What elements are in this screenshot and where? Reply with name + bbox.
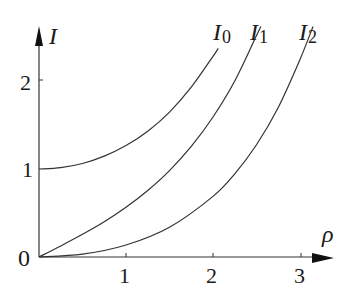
curve-label-I1: I1 — [249, 19, 268, 47]
x-tick-label-1: 1 — [119, 263, 130, 288]
x-axis-label: ρ — [321, 221, 334, 247]
y-axis-arrow-icon — [35, 26, 43, 46]
x-tick-label-2: 2 — [206, 263, 217, 288]
y-axis-label: I — [48, 23, 58, 49]
bessel-chart: 0 1 2 3 1 2 I ρ I0 I1 I2 — [0, 0, 352, 301]
curve-I1 — [39, 26, 261, 257]
x-axis-arrow-icon — [312, 253, 334, 263]
y-tick-label-2: 2 — [20, 70, 31, 95]
x-tick-label-3: 3 — [294, 263, 305, 288]
curve-I2 — [39, 26, 313, 257]
curve-I0 — [39, 48, 218, 169]
y-tick-label-1: 1 — [22, 157, 33, 182]
origin-label: 0 — [18, 245, 30, 271]
curve-label-I2: I2 — [298, 19, 317, 47]
curve-label-I0: I0 — [212, 19, 231, 47]
